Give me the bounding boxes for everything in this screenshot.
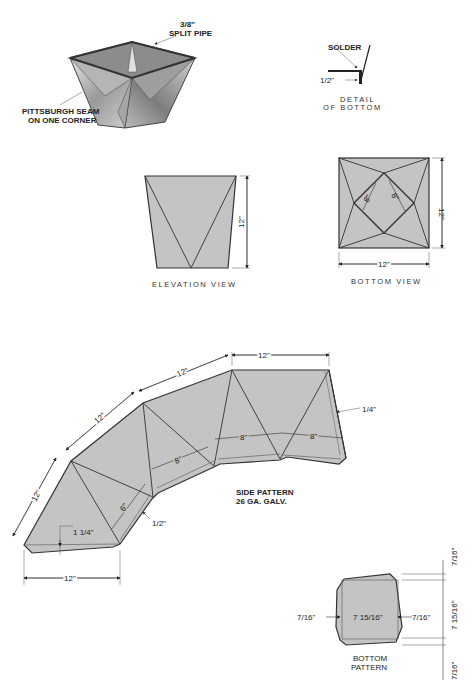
side-top-dim-1: 12": [258, 351, 270, 360]
bottom-pattern-v-center: 7 15/16": [450, 600, 459, 630]
side-left-dim: 12": [30, 488, 44, 503]
detail-caption-2: OF BOTTOM: [323, 103, 382, 112]
pittsburgh-seam-leader: [60, 92, 82, 105]
bottom-pattern-v-bottom: 7/16": [450, 661, 459, 680]
elevation-height-dim: 12": [237, 216, 246, 228]
bottom-view-width-dim: 12": [378, 260, 390, 269]
bottom-pattern-caption-2: PATTERN: [351, 663, 387, 672]
bottom-pattern-caption-1: BOTTOM: [353, 654, 387, 663]
bottom-pattern-v-top: 7/16": [450, 547, 459, 566]
bottom-view-height-dim: 12": [437, 208, 446, 220]
bottom-view-caption: BOTTOM VIEW: [351, 277, 422, 286]
split-pipe-label: SPLIT PIPE: [169, 29, 213, 38]
elevation-caption: ELEVATION VIEW: [152, 280, 237, 289]
bottom-pattern-right-margin: 7/16": [412, 613, 431, 622]
pittsburgh-seam-note: ON ONE CORNER: [28, 116, 97, 125]
split-pipe-size: 3/8": [180, 20, 195, 29]
bottom-pattern-center: 7 15/16": [353, 613, 383, 622]
side-top-dim-2: 12": [175, 366, 189, 379]
side-inner-dim-1: 8": [240, 433, 247, 442]
side-hem-bottom: 1 1/4": [73, 528, 94, 537]
side-bottom-dim: 12": [64, 574, 76, 583]
side-pattern-caption-1: SIDE PATTERN: [236, 488, 294, 497]
solder-label: SOLDER: [328, 43, 362, 52]
elevation-view: [145, 176, 250, 268]
drawing-canvas: 3/8" SPLIT PIPE PITTSBURGH SEAM ON ONE C…: [0, 0, 475, 686]
side-inner-dim-2: 8": [310, 432, 317, 441]
side-hem-lower: 1/2": [152, 519, 166, 528]
side-top-dim-3: 12": [93, 411, 108, 426]
side-pattern: [13, 352, 360, 585]
bottom-view: [339, 158, 445, 268]
bottom-pattern-left-margin: 7/16": [297, 613, 316, 622]
pittsburgh-seam-label: PITTSBURGH SEAM: [22, 107, 100, 116]
detail-half-inch: 1/2": [320, 76, 334, 85]
side-hem-right: 1/4": [362, 405, 376, 414]
side-pattern-caption-2: 26 GA. GALV.: [236, 497, 287, 506]
